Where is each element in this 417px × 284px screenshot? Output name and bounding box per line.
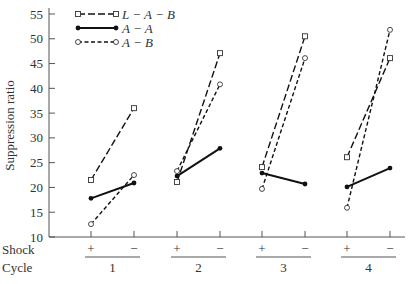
dot-marker [218,146,223,151]
legend-label: L − A − B [121,7,175,22]
y-axis: 10152025303540455055Suppression ratio [2,7,55,245]
series-segment [91,108,134,180]
square-marker [76,12,81,17]
series-segment [347,58,390,157]
legend: L − A − BA − AA − B [76,7,176,50]
legend-label: A − A [121,21,153,36]
y-tick-label: 50 [30,31,43,46]
series-segment [91,183,134,198]
series-layer [89,27,393,226]
y-tick-label: 35 [30,106,43,121]
square-marker [303,34,308,39]
y-tick-label: 20 [30,180,43,195]
shock-minus-label: − [386,241,393,256]
shock-plus-label: + [258,241,265,256]
circle-marker [76,40,81,45]
dot-marker [132,181,137,186]
series-segment [177,84,220,171]
circle-marker [175,169,180,174]
cycle-label: 2 [195,260,202,275]
square-marker [89,178,94,183]
shock-row-label: Shock [2,242,35,257]
circle-marker [303,56,308,61]
square-marker [175,179,180,184]
square-marker [260,165,265,170]
series-segment [262,173,305,184]
dot-marker [345,185,350,190]
dot-marker [89,196,94,201]
circle-marker [218,82,223,87]
dot-marker [175,174,180,179]
y-axis-title: Suppression ratio [2,80,17,171]
dot-marker [303,182,308,187]
cycle-label: 4 [365,260,372,275]
square-marker [132,106,137,111]
shock-plus-label: + [87,241,94,256]
series-segment [91,175,134,224]
dot-marker [114,26,119,31]
shock-minus-label: − [301,241,308,256]
shock-minus-label: − [130,241,137,256]
cycle-label: 1 [109,260,116,275]
circle-marker [114,40,119,45]
shock-minus-label: − [216,241,223,256]
y-tick-label: 30 [30,130,43,145]
circle-marker [132,173,137,178]
circle-marker [345,205,350,210]
square-marker [345,155,350,160]
shock-plus-label: + [173,241,180,256]
y-tick-label: 45 [30,56,43,71]
circle-marker [260,186,265,191]
series-a-b [89,27,393,226]
circle-marker [388,27,393,32]
series-segment [347,30,390,208]
suppression-ratio-chart: 10152025303540455055Suppression ratio Sh… [0,0,417,284]
dot-marker [76,26,81,31]
y-tick-label: 55 [30,7,43,22]
y-tick-label: 40 [30,81,43,96]
square-marker [114,12,119,17]
series-segment [262,58,305,189]
x-axis: ShockCycle+−1+−2+−3+−4 [2,231,405,275]
shock-plus-label: + [343,241,350,256]
series-segment [262,36,305,167]
cycle-label: 3 [280,260,287,275]
y-tick-label: 15 [30,205,43,220]
series-segment [347,168,390,187]
dot-marker [388,166,393,171]
square-marker [388,56,393,61]
square-marker [218,51,223,56]
circle-marker [89,222,94,227]
y-tick-label: 25 [30,155,43,170]
cycle-row-label: Cycle [2,260,33,275]
legend-label: A − B [121,35,153,50]
series-l-a-b [89,34,393,185]
dot-marker [260,171,265,176]
